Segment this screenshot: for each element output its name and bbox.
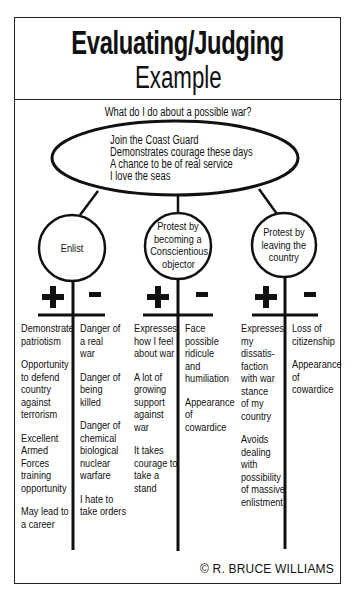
list-item-line: terrorism [21, 408, 74, 421]
minus-icon [304, 292, 316, 297]
list-item-line: against [134, 408, 177, 421]
list-item-line: It takes [134, 444, 177, 457]
list-item-line: Danger of [80, 371, 126, 384]
list-item-line: cowardice [185, 421, 235, 434]
list-item-line: my [241, 335, 285, 348]
list-item-line: Expresses [241, 322, 285, 335]
list-item-line: A lot of [134, 371, 177, 384]
list-item-line: stance [241, 385, 285, 398]
list-item-line: patriotism [21, 335, 74, 348]
list-item-line: May lead to [21, 505, 74, 518]
list-item: It takescourage totake astand [134, 444, 188, 494]
list-item-line: biological [80, 444, 126, 457]
list-item-line: Danger of [80, 322, 126, 335]
central-idea-line: I love the seas [110, 170, 293, 182]
list-item-line: possible [185, 335, 235, 348]
list-item: Appearanceofcowardice [292, 358, 354, 396]
list-item-line: country [241, 410, 285, 423]
list-item: Avoidsdealingwithpossibilityof massiveen… [241, 433, 296, 508]
list-item: Danger ofa realwar [80, 322, 138, 360]
pros-list-objector: Expresseshow I feelabout warA lot ofgrow… [134, 322, 188, 505]
list-item-line: killed [80, 396, 126, 409]
list-item: I hate totake orders [80, 493, 138, 518]
connector-leave-country [259, 189, 277, 214]
list-item-line: stand [134, 482, 177, 495]
list-item-line: country [21, 383, 74, 396]
cons-list-enlist: Danger ofa realwarDanger ofbeingkilledDa… [80, 322, 138, 529]
list-item: Danger ofchemicalbiologicalnuclearwarfar… [80, 419, 138, 482]
list-item-line: Appearance [185, 396, 235, 409]
minus-icon [89, 292, 101, 297]
list-item-line: support [134, 396, 177, 409]
list-item-line: of massive [241, 483, 285, 496]
list-item-line: faction [241, 360, 285, 373]
list-item-line: Excellent [21, 432, 74, 445]
option-label-leave-country: Protest by leaving the country [252, 226, 316, 264]
list-item: Expresseshow I feelabout war [134, 322, 188, 360]
list-item-line: humiliation [185, 372, 235, 385]
list-item-line: opportunity [21, 482, 74, 495]
list-item-line: cowardice [292, 383, 342, 396]
list-item-line: take orders [80, 505, 126, 518]
cons-list-leave-country: Loss ofcitizenshipAppearanceofcowardice [292, 322, 354, 407]
list-item-line: Armed [21, 444, 74, 457]
list-item-line: and [185, 360, 235, 373]
list-item-line: Avoids [241, 433, 285, 446]
list-item-line: warfare [80, 469, 126, 482]
list-item: Opportunityto defendcountryagainstterror… [21, 358, 87, 421]
pros-list-enlist: DemonstratepatriotismOpportunityto defen… [21, 322, 87, 541]
list-item-line: I hate to [80, 493, 126, 506]
list-item-line: courage to [134, 457, 177, 470]
list-item: Danger ofbeingkilled [80, 371, 138, 409]
list-item-line: ridicule [185, 347, 235, 360]
list-item-line: war [134, 421, 177, 434]
list-item-line: Demonstrate [21, 322, 74, 335]
list-item-line: Appearance [292, 358, 342, 371]
list-item-line: Face [185, 322, 235, 335]
list-item-line: Opportunity [21, 358, 74, 371]
list-item-line: of [185, 408, 235, 421]
list-item-line: how I feel [134, 335, 177, 348]
option-label-enlist: Enlist [42, 242, 102, 255]
list-item-line: war [80, 347, 126, 360]
plus-icon [42, 286, 64, 308]
list-item: Demonstratepatriotism [21, 322, 87, 347]
list-item-line: training [21, 469, 74, 482]
list-item-line: Loss of [292, 322, 342, 335]
pros-list-leave-country: Expressesmydissatis-factionwith warstanc… [241, 322, 296, 519]
list-item-line: of [292, 371, 342, 384]
minus-icon [196, 292, 208, 297]
connector-enlist [80, 191, 98, 215]
list-item-line: citizenship [292, 335, 342, 348]
list-item: Loss ofcitizenship [292, 322, 354, 347]
list-item-line: dealing [241, 446, 285, 459]
copyright-credit: © R. BRUCE WILLIAMS [200, 562, 334, 576]
list-item-line: to defend [21, 371, 74, 384]
list-item: May lead toa career [21, 505, 87, 530]
plus-icon [255, 286, 277, 308]
option-label-objector: Protest by becoming a Conscientious obje… [143, 220, 213, 270]
list-item-line: with war [241, 372, 285, 385]
list-item: Expressesmydissatis-factionwith warstanc… [241, 322, 296, 422]
list-item-line: a career [21, 518, 74, 531]
list-item-line: growing [134, 383, 177, 396]
list-item-line: with [241, 458, 285, 471]
central-idea-text: Join the Coast Guard Demonstrates courag… [110, 134, 293, 182]
cons-list-objector: FacepossibleridiculeandhumiliationAppear… [185, 322, 247, 444]
list-item: Facepossibleridiculeandhumiliation [185, 322, 247, 385]
list-item-line: a real [80, 335, 126, 348]
list-item-line: take a [134, 469, 177, 482]
list-item-line: Expresses [134, 322, 177, 335]
list-item-line: chemical [80, 432, 126, 445]
list-item-line: about war [134, 347, 177, 360]
list-item-line: Danger of [80, 419, 126, 432]
list-item-line: possibility [241, 471, 285, 484]
list-item-line: dissatis- [241, 347, 285, 360]
list-item-line: nuclear [80, 457, 126, 470]
list-item-line: of my [241, 397, 285, 410]
list-item: ExcellentArmedForcestrainingopportunity [21, 432, 87, 495]
list-item-line: being [80, 383, 126, 396]
list-item-line: enlistment [241, 496, 285, 509]
list-item-line: Forces [21, 457, 74, 470]
list-item-line: against [21, 396, 74, 409]
